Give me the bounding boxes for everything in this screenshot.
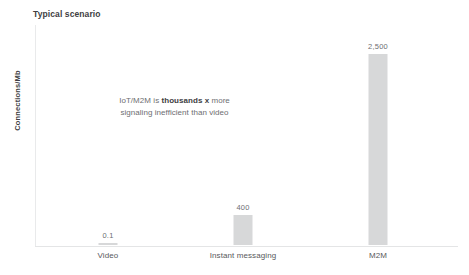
annotation-text-pre: IoT/M2M is [119, 96, 161, 105]
x-axis-category-instant-messaging: Instant messaging [173, 251, 313, 260]
chart-title: Typical scenario [33, 9, 101, 19]
bar-video[interactable] [99, 243, 118, 245]
bar-value-m2m: 2,500 [368, 42, 388, 51]
x-axis-category-m2m: M2M [308, 251, 448, 260]
bar-m2m[interactable] [369, 54, 388, 245]
bar-value-video: 0.1 [102, 231, 113, 240]
annotation-text-bold: thousands x [161, 96, 209, 105]
plot-area: 0.1 400 2,500 [35, 25, 458, 246]
bar-chart: Typical scenario Connections/Mb 0.1 400 … [0, 0, 469, 275]
bar-value-instant-messaging: 400 [236, 203, 249, 212]
x-axis-category-video: Video [38, 251, 178, 260]
x-axis-line [35, 246, 458, 247]
y-axis-line [35, 25, 36, 246]
bar-group-video: 0.1 [38, 24, 178, 245]
annotation-line-1: IoT/M2M is thousands x more [72, 95, 277, 107]
y-axis-label: Connections/Mb [13, 46, 22, 156]
annotation-line-2: signaling inefficient than video [72, 107, 277, 119]
bar-instant-messaging[interactable] [234, 215, 253, 245]
bar-group-m2m: 2,500 [308, 24, 448, 245]
bar-group-instant-messaging: 400 [173, 24, 313, 245]
annotation-text-post: more [209, 96, 230, 105]
chart-annotation: IoT/M2M is thousands x more signaling in… [72, 95, 277, 118]
